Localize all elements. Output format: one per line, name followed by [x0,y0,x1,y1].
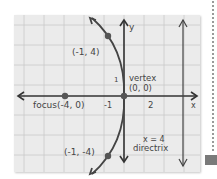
point-neg1-neg4 [105,153,111,159]
tick-label-neg1: -1 [104,101,112,110]
vertex-point [121,93,127,99]
focus-point [62,93,68,99]
label-point-bottom: (-1, -4) [64,147,95,157]
label-point-top: (-1, 4) [72,47,99,57]
label-directrix: directrix [133,143,168,153]
label-vertex-title: vertex [129,73,156,83]
label-vertex-coords: (0, 0) [129,83,152,93]
parabola-diagram: (-1, 4) (-1, -4) focus(-4, 0) vertex (0,… [0,0,217,179]
tick-label-y1: 1 [114,76,118,84]
y-axis-label: y [129,22,135,32]
x-axis [18,92,197,100]
point-neg1-4 [105,33,111,39]
tick-label-2: 2 [148,100,153,110]
x-axis-label: x [191,101,196,110]
label-focus: focus(-4, 0) [33,100,84,110]
directrix-line [179,20,187,166]
